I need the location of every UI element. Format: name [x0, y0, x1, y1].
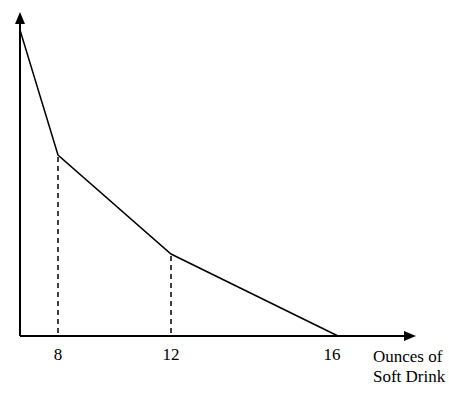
x-tick-12: 12: [163, 345, 180, 365]
x-axis-label: Ounces of Soft Drink: [373, 347, 445, 387]
x-tick-16: 16: [324, 345, 341, 365]
x-tick-8: 8: [54, 345, 63, 365]
chart-canvas: [0, 0, 449, 393]
x-axis-label-line1: Ounces of: [373, 347, 445, 367]
y-axis-arrow-icon: [15, 12, 25, 24]
x-axis-label-line2: Soft Drink: [373, 367, 445, 387]
demand-curve: [20, 30, 338, 336]
x-axis-arrow-icon: [404, 331, 416, 341]
